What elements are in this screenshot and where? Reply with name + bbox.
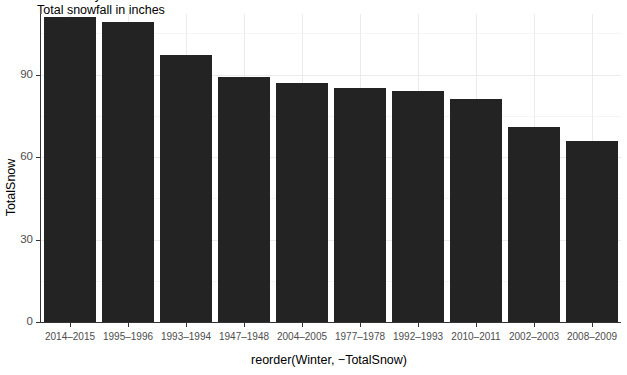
bar [508,127,560,322]
x-tick-mark [128,323,129,327]
x-tick-mark [592,323,593,327]
bar [334,88,386,322]
y-tick-label: 0 [0,315,33,327]
y-tick-mark [36,322,40,323]
bar [160,55,212,322]
bar [44,17,96,322]
bar [218,77,270,322]
bar [450,99,502,322]
x-tick-mark [360,323,361,327]
plot-panel [41,14,621,322]
x-tick-mark [70,323,71,327]
x-tick-mark [534,323,535,327]
x-tick-mark [476,323,477,327]
y-tick-label: 60 [0,150,33,162]
bar-chart: Snowfall by winter season Total snowfall… [0,0,627,375]
x-tick-mark [244,323,245,327]
x-tick-label: 2008–2009 [552,331,627,342]
y-tick-label: 90 [0,68,33,80]
y-tick-mark [36,240,40,241]
y-tick-mark [36,157,40,158]
y-tick-label: 30 [0,233,33,245]
bar [566,141,618,323]
x-tick-mark [302,323,303,327]
x-axis-title: reorder(Winter, −TotalSnow) [41,353,617,367]
bar [102,22,154,322]
x-tick-mark [418,323,419,327]
bar [276,83,328,322]
x-tick-mark [186,323,187,327]
y-axis-line [40,14,41,323]
y-tick-mark [36,75,40,76]
bar [392,91,444,322]
